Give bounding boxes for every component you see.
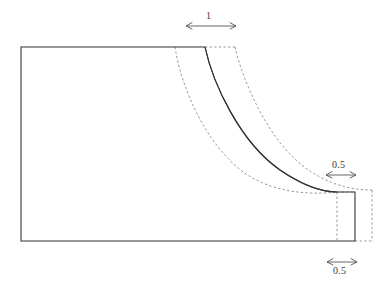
solid-profile-curve [205, 47, 337, 192]
dimension-label-top-width: 1 [206, 11, 211, 21]
dimension-label-lower-right-width: 0.5 [333, 266, 346, 276]
dimension-top-width [186, 23, 236, 29]
dashed-profile-curves [175, 47, 372, 241]
dashed-curve-inner [175, 47, 337, 193]
dimension-upper-right-width [326, 172, 356, 178]
figure-canvas [0, 0, 389, 290]
solid-section-outline [21, 47, 355, 241]
technical-drawing-figure: 1 0.5 0.5 [0, 0, 389, 290]
dimension-label-upper-right-width: 0.5 [332, 160, 345, 170]
dashed-curve-outer [235, 47, 372, 190]
section-outline-path [21, 47, 355, 241]
